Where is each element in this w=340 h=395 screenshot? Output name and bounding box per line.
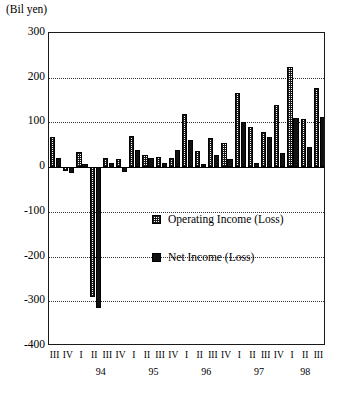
bar-group [141,33,154,344]
bar-net-income [122,167,127,171]
bar-operating-income [261,132,266,167]
bar-group [75,33,88,344]
bar-net-income [201,164,206,168]
bar-net-income [96,167,101,308]
bar-net-income [267,137,272,167]
bar-operating-income [63,167,68,171]
chart-legend: Operating Income (Loss)Net Income (Loss) [152,212,284,288]
bar-group [207,33,220,344]
bar-group [181,33,194,344]
bar-net-income [109,163,114,167]
bar-group [49,33,62,344]
bar-operating-income [248,127,253,167]
bar-net-income [280,153,285,167]
bar-operating-income [129,136,134,167]
y-axis-tick-label: -400 [1,339,45,351]
legend-swatch-icon [152,253,161,262]
x-axis-tick-label: I [233,350,246,360]
y-axis-tick-label: 100 [1,115,45,127]
bar-net-income [162,163,167,167]
bar-operating-income [116,159,121,167]
x-axis-year-label: 98 [285,366,325,377]
bar-operating-income [90,167,95,297]
bar-operating-income [274,105,279,168]
legend-item: Operating Income (Loss) [152,212,284,226]
bar-group [247,33,260,344]
bar-net-income [320,117,325,168]
bar-operating-income [301,119,306,167]
bar-group [194,33,207,344]
bar-operating-income [50,137,55,167]
x-axis-tick-label: III [206,350,219,360]
bar-net-income [148,158,153,167]
bar-operating-income [169,158,174,167]
bar-group [62,33,75,344]
x-axis-tick-label: III [101,350,114,360]
bar-net-income [188,140,193,167]
bar-operating-income [142,155,147,167]
y-axis-tick-label: 200 [1,71,45,83]
bar-net-income [82,164,87,167]
legend-label: Net Income (Loss) [168,250,254,264]
legend-item: Net Income (Loss) [152,250,284,264]
bar-group [89,33,102,344]
bar-operating-income [103,158,108,167]
x-axis-year-label: 95 [127,366,180,377]
bar-net-income [135,150,140,167]
chart-container: (Bil yen) 3002001000-100-200-300-400 III… [0,0,340,395]
x-axis-tick-label: I [180,350,193,360]
x-axis-tick-label: I [285,350,298,360]
x-axis-tick-label: III [259,350,272,360]
bar-operating-income [182,114,187,167]
bar-net-income [227,159,232,167]
y-axis-tick-label: -100 [1,205,45,217]
bar-group [115,33,128,344]
bar-group [313,33,325,344]
legend-swatch-icon [152,215,161,224]
x-axis-tick-label: III [312,350,325,360]
y-axis-tick-label: -300 [1,294,45,306]
bar-operating-income [314,88,319,168]
bar-group [286,33,299,344]
bar-operating-income [208,138,213,168]
units-label: (Bil yen) [6,2,47,16]
bar-group [273,33,286,344]
bar-net-income [69,167,74,173]
x-axis-tick-label: IV [114,350,127,360]
bar-group [168,33,181,344]
plot-area [48,32,325,345]
bar-group [300,33,313,344]
bar-net-income [307,147,312,167]
x-axis-tick-label: II [140,350,153,360]
x-axis-tick-label: II [193,350,206,360]
legend-label: Operating Income (Loss) [168,212,284,226]
bar-operating-income [195,151,200,167]
bar-net-income [175,150,180,167]
y-axis-tick-label: 0 [1,160,45,172]
bar-group [128,33,141,344]
bar-net-income [56,158,61,167]
bar-net-income [293,118,298,167]
x-axis-year-label: 94 [74,366,127,377]
bar-group [220,33,233,344]
x-axis-tick-label: II [299,350,312,360]
bar-net-income [241,122,246,167]
x-axis-tick-label: IV [272,350,285,360]
x-axis-tick-label: IV [167,350,180,360]
x-axis-tick-label: IV [219,350,232,360]
bar-group [260,33,273,344]
x-axis-tick-label: IV [61,350,74,360]
x-axis-tick-label: II [88,350,101,360]
bar-net-income [254,163,259,167]
x-axis-tick-label: I [127,350,140,360]
bar-operating-income [76,152,81,167]
bar-operating-income [156,157,161,167]
bar-group [234,33,247,344]
y-axis-tick-label: 300 [1,26,45,38]
x-axis-tick-label: II [246,350,259,360]
x-axis-tick-label: III [154,350,167,360]
bar-operating-income [235,93,240,167]
bar-group [155,33,168,344]
bar-group [102,33,115,344]
bar-net-income [214,155,219,168]
